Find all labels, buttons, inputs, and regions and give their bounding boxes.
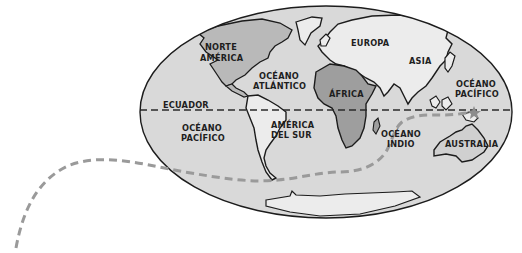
label-pacific-east-1: OCÉANO [456, 78, 496, 89]
label-pacific-west-2: PACÍFICO [181, 132, 225, 143]
world-map: NORTE AMÉRICA OCÉANO ATLÁNTICO EUROPA AS… [0, 0, 522, 253]
label-atlantic-1: OCÉANO [259, 70, 299, 81]
label-atlantic-2: ATLÁNTICO [253, 80, 306, 91]
label-north-america-1: NORTE [205, 42, 237, 52]
label-indian-2: INDIO [387, 139, 415, 149]
label-pacific-east-2: PACÍFICO [455, 88, 499, 99]
label-australia: AUSTRALIA [445, 139, 499, 149]
label-south-america-2: DEL SUR [271, 130, 312, 140]
label-europe: EUROPA [351, 38, 390, 48]
label-north-america-2: AMÉRICA [200, 52, 244, 63]
label-south-america-1: AMÉRICA [271, 119, 315, 130]
label-africa: ÁFRICA [329, 88, 364, 99]
label-indian-1: OCÉANO [381, 128, 421, 139]
label-asia: ASIA [409, 56, 432, 66]
label-pacific-west-1: OCÉANO [182, 122, 222, 133]
label-equator: ECUADOR [163, 100, 209, 110]
